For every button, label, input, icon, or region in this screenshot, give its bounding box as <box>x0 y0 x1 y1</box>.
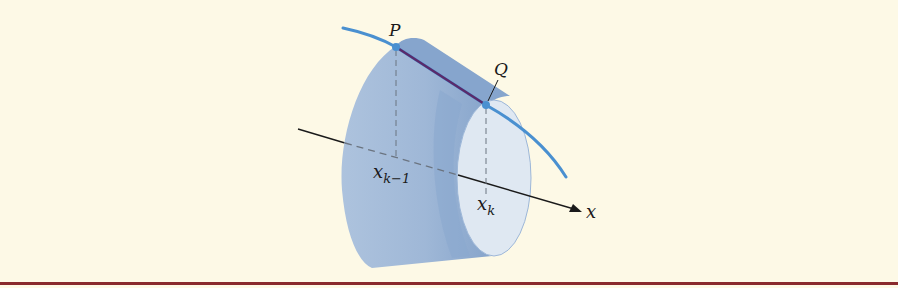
figure-frame: P Q xk−1 xk x <box>0 0 898 288</box>
point-q <box>482 101 490 109</box>
label-q: Q <box>494 59 508 79</box>
bottom-rule <box>0 282 898 285</box>
label-p: P <box>388 20 401 40</box>
point-p <box>392 43 400 51</box>
frustum-diagram: P Q xk−1 xk x <box>0 0 898 288</box>
label-axis-x: x <box>586 201 596 222</box>
x-axis-back <box>298 129 345 143</box>
